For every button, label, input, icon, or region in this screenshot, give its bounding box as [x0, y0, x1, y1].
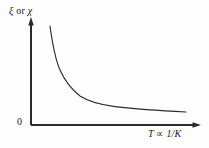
proportional-to-icon: ∝	[156, 128, 163, 139]
x-axis-expression: 1/K	[166, 128, 181, 139]
plot-area	[0, 0, 209, 148]
x-axis-arrowhead	[193, 122, 202, 128]
figure-container: ξ or χ T ∝ 1/K 0	[0, 0, 209, 148]
y-axis-label: ξ or χ	[9, 6, 32, 16]
x-axis-label: T ∝ 1/K	[148, 129, 181, 139]
y-axis-or-text: or	[16, 5, 25, 16]
y-axis-arrowhead	[28, 17, 34, 26]
y-axis-symbol-chi: χ	[28, 5, 33, 16]
decay-curve	[50, 26, 186, 112]
origin-label: 0	[17, 117, 22, 127]
